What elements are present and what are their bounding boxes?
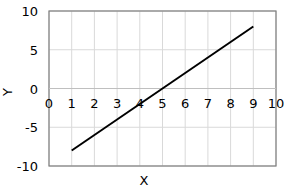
x-tick-label: 3 [113, 96, 121, 111]
x-tick-label: 0 [45, 96, 53, 111]
line-chart: 012345678910 1050-5-10 X Y [0, 0, 284, 188]
y-tick-labels: 1050-5-10 [17, 4, 38, 174]
x-tick-label: 9 [249, 96, 257, 111]
x-tick-label: 6 [181, 96, 189, 111]
x-axis-label: X [140, 173, 149, 188]
x-tick-label: 4 [136, 96, 144, 111]
y-axis-label: Y [0, 88, 15, 97]
x-tick-label: 2 [90, 96, 98, 111]
y-tick-label: -5 [25, 120, 38, 135]
y-tick-label: 5 [30, 43, 38, 58]
y-tick-label: 0 [30, 82, 38, 97]
x-tick-label: 10 [268, 96, 284, 111]
x-tick-label: 7 [204, 96, 212, 111]
x-tick-label: 1 [68, 96, 76, 111]
x-tick-labels: 012345678910 [45, 96, 284, 111]
y-tick-label: -10 [17, 159, 38, 174]
y-tick-label: 10 [21, 4, 38, 19]
x-tick-label: 5 [158, 96, 166, 111]
x-tick-label: 8 [226, 96, 234, 111]
